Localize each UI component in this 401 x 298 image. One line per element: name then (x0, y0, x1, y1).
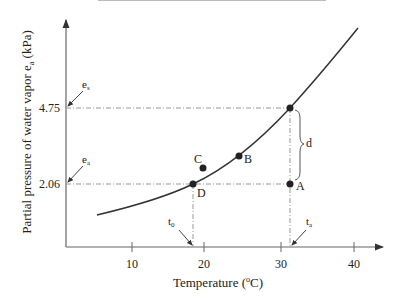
annotation-t0: t0 (168, 215, 175, 229)
arrow-ta (292, 230, 306, 245)
y-tick-label-2.06: 2.06 (39, 177, 60, 191)
arrow-ea (68, 166, 83, 182)
label-C: C (194, 152, 202, 166)
label-d: d (306, 136, 312, 150)
x-tick-label-10: 10 (126, 257, 138, 271)
x-tick-label-40: 40 (348, 257, 360, 271)
vapor-pressure-chart: 10 20 30 40 Temperature (oC) Partial pre… (0, 0, 401, 298)
point-B (236, 153, 243, 160)
y-tick-label-4.75: 4.75 (39, 101, 60, 115)
saturation-curve (97, 28, 358, 215)
arrow-es (68, 91, 83, 106)
x-axis-label: Temperature (oC) (173, 275, 263, 290)
data-points (190, 105, 294, 188)
point-saturation (287, 105, 294, 112)
label-B: B (244, 152, 252, 166)
annotation-ea: ea (82, 153, 91, 167)
annotation-ta: ta (306, 215, 313, 229)
x-tick-label-20: 20 (198, 257, 210, 271)
arrow-t0 (179, 230, 192, 245)
x-tick-label-30: 30 (275, 257, 287, 271)
y-axis-label: Partial pressure of water vapor ea (kPa) (19, 30, 36, 234)
annotation-es: es (82, 78, 90, 92)
label-D: D (197, 186, 206, 200)
point-A (287, 181, 294, 188)
brace-d (295, 110, 304, 180)
guide-lines (66, 108, 290, 247)
label-A: A (296, 179, 305, 193)
point-D (190, 181, 197, 188)
